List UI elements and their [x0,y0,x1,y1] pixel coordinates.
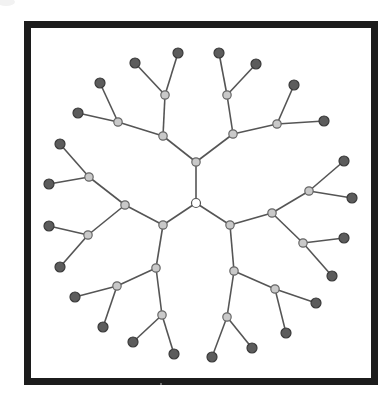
inner-node [229,130,237,138]
leaf-node [95,78,105,88]
tree-edge [78,113,118,122]
tree-edge [230,225,234,271]
tree-edge [272,191,309,213]
tree-edge [163,136,196,162]
inner-node [161,91,169,99]
tree-edge [75,286,117,297]
tree-edge [156,268,162,315]
inner-node [121,201,129,209]
leaf-node [339,156,349,166]
inner-node [84,231,92,239]
tree-edge [60,235,88,267]
frame-artifact-dot [160,383,162,385]
leaf-node [319,116,329,126]
tree-edge [227,271,234,317]
inner-node [113,282,121,290]
tree-edge [275,289,316,303]
tree-edge [196,134,233,162]
leaf-node [327,271,337,281]
inner-node [305,187,313,195]
tree-edge [60,144,89,177]
inner-node [223,91,231,99]
inner-node [192,158,200,166]
inner-node [158,311,166,319]
root-node [192,199,201,208]
leaf-node [207,352,217,362]
leaf-node [130,58,140,68]
leaf-node [251,59,261,69]
leaf-node [98,322,108,332]
leaf-node [70,292,80,302]
tree-edge [49,177,89,184]
tree-edge [309,191,352,198]
leaf-node [44,179,54,189]
tree-edge [156,225,163,268]
tree-edge [227,317,252,348]
tree-edge [89,177,125,205]
leaf-node [173,48,183,58]
inner-node [85,173,93,181]
tree-edge [230,213,272,225]
leaf-node [289,80,299,90]
leaf-node [281,328,291,338]
tree-edge [163,95,165,136]
tree-diagram [0,0,391,413]
corner-artifact [0,0,15,6]
leaf-node [55,139,65,149]
tree-edge [212,317,227,357]
leaf-node [247,343,257,353]
tree-edge [227,64,256,95]
leaf-node [73,108,83,118]
tree-edge [49,226,88,235]
tree-nodes [44,48,357,362]
leaf-node [169,349,179,359]
tree-edge [125,205,163,225]
tree-edge [163,203,196,225]
tree-edge [117,268,156,286]
inner-node [226,221,234,229]
tree-edge [162,315,174,354]
leaf-node [55,262,65,272]
inner-node [223,313,231,321]
tree-edge [88,205,125,235]
tree-edge [275,289,286,333]
tree-edge [196,203,230,225]
tree-edge [103,286,117,327]
tree-edge [272,213,303,243]
tree-edge [165,53,178,95]
inner-node [273,120,281,128]
leaf-node [128,337,138,347]
tree-edge [118,122,163,136]
tree-edge [309,161,344,191]
tree-edge [303,238,344,243]
tree-edge [219,53,227,95]
inner-node [114,118,122,126]
inner-node [299,239,307,247]
leaf-node [214,48,224,58]
inner-node [271,285,279,293]
inner-node [159,132,167,140]
tree-edge [277,85,294,124]
tree-edge [234,271,275,289]
inner-node [159,221,167,229]
tree-edge [100,83,118,122]
tree-edge [233,124,277,134]
leaf-node [347,193,357,203]
tree-edge [303,243,332,276]
tree-edge [135,63,165,95]
leaf-node [44,221,54,231]
tree-edge [133,315,162,342]
inner-node [268,209,276,217]
leaf-node [311,298,321,308]
inner-node [152,264,160,272]
tree-edge [277,121,324,124]
inner-node [230,267,238,275]
tree-edge [227,95,233,134]
leaf-node [339,233,349,243]
